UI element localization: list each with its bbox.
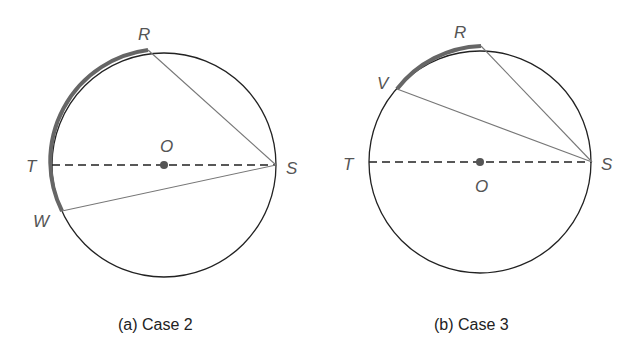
center-dot-a xyxy=(160,161,168,169)
figure-a: R O T S W (a) Case 2 xyxy=(26,25,298,333)
label-s-b: S xyxy=(601,155,613,174)
label-t-a: T xyxy=(26,157,38,176)
figure-b: R V T S O (b) Case 3 xyxy=(343,23,613,333)
caption-b: (b) Case 3 xyxy=(434,316,509,333)
diagram-canvas: R O T S W (a) Case 2 R V T S O (b) Case … xyxy=(0,0,633,349)
arc-rv-b xyxy=(397,46,481,89)
label-s-a: S xyxy=(286,159,298,178)
label-v-b: V xyxy=(377,74,390,93)
chord-ws-a xyxy=(62,165,276,211)
label-w-a: W xyxy=(33,212,51,231)
label-o-b: O xyxy=(475,177,488,196)
label-o-a: O xyxy=(160,137,173,156)
label-t-b: T xyxy=(343,155,355,174)
label-r-a: R xyxy=(138,25,150,44)
chord-vs-b xyxy=(397,89,592,162)
caption-a: (a) Case 2 xyxy=(118,316,193,333)
label-r-b: R xyxy=(454,23,466,42)
center-dot-b xyxy=(476,158,484,166)
